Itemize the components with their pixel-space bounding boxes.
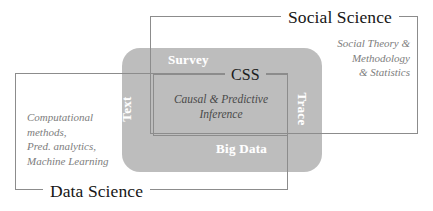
data-science-heading: Data Science <box>43 181 150 203</box>
css-heading: CSS <box>225 65 266 85</box>
core-label-survey: Survey <box>168 52 209 68</box>
css-description: Causal & Predictive Inference <box>158 92 284 122</box>
social-science-description: Social Theory & Methodology & Statistics <box>288 36 410 80</box>
diagram-canvas: Survey Big Data Text Trace Social Scienc… <box>0 0 433 211</box>
data-science-description: Computational methods, Pred. analytics, … <box>27 110 137 169</box>
core-label-trace: Trace <box>294 92 310 125</box>
social-science-heading: Social Science <box>281 7 399 29</box>
core-label-big-data: Big Data <box>216 141 267 157</box>
